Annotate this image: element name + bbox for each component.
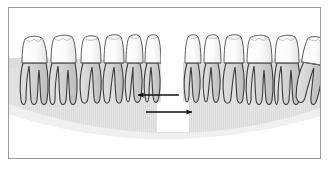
tooth-crown <box>81 36 101 63</box>
tooth-root <box>246 63 273 105</box>
illustration-frame <box>8 7 321 159</box>
tooth-crown <box>275 35 299 63</box>
tooth-crown <box>51 35 76 63</box>
tooth-crown <box>185 35 201 63</box>
tooth-L1 <box>20 36 48 104</box>
dental-arch-illustration <box>9 8 320 158</box>
tooth-crown <box>126 35 143 63</box>
tooth-crown <box>247 35 272 63</box>
tooth-root <box>20 63 48 105</box>
tooth-root <box>125 63 142 102</box>
tooth-crown <box>204 35 221 63</box>
tooth-L5 <box>125 35 143 103</box>
figure-root: Mandibular arch cross-section with edent… <box>0 0 331 170</box>
tooth-R4 <box>246 35 273 104</box>
tooth-L2 <box>49 35 77 104</box>
tooth-L6 <box>144 35 161 103</box>
tooth-root <box>49 63 77 105</box>
tooth-crown <box>145 35 161 63</box>
gap-mask-lower <box>158 103 188 131</box>
gap-mask-upper <box>162 32 182 100</box>
tooth-R1 <box>184 35 201 103</box>
tooth-crown <box>22 36 47 63</box>
